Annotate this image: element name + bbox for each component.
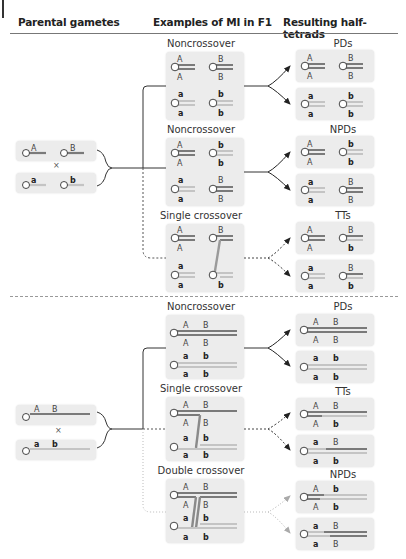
svg-text:A: A <box>177 226 183 235</box>
top-example-3-chromosomes: AA aa B b <box>171 226 233 290</box>
svg-text:A: A <box>313 420 319 429</box>
svg-text:a: a <box>178 176 183 185</box>
bottom-parental-chromosomes: AB ab <box>23 405 91 455</box>
svg-text:B: B <box>333 336 339 345</box>
svg-text:a: a <box>183 370 188 379</box>
svg-text:B: B <box>203 419 209 428</box>
svg-text:a: a <box>308 196 313 205</box>
svg-text:A: A <box>31 144 37 153</box>
svg-text:b: b <box>333 503 339 512</box>
svg-text:b: b <box>218 141 224 150</box>
svg-text:A: A <box>313 318 319 327</box>
svg-text:b: b <box>203 514 209 523</box>
svg-text:a: a <box>178 281 183 290</box>
svg-text:B: B <box>203 483 209 492</box>
svg-text:b: b <box>333 485 339 494</box>
top-example-2-chromosomes: Ab Ab aB aB <box>171 141 233 204</box>
svg-text:b: b <box>203 352 209 361</box>
svg-text:A: A <box>183 339 189 348</box>
svg-text:a: a <box>308 282 313 291</box>
svg-text:b: b <box>348 110 354 119</box>
svg-text:B: B <box>218 176 224 185</box>
svg-text:a: a <box>183 514 188 523</box>
svg-text:a: a <box>34 440 39 449</box>
svg-text:b: b <box>203 370 209 379</box>
svg-text:b: b <box>218 281 224 290</box>
svg-text:a: a <box>313 457 318 466</box>
svg-text:B: B <box>333 318 339 327</box>
svg-text:b: b <box>348 158 354 167</box>
svg-text:B: B <box>70 144 76 153</box>
svg-text:b: b <box>333 420 339 429</box>
svg-text:a: a <box>183 434 188 443</box>
svg-text:A: A <box>307 54 313 63</box>
svg-text:A: A <box>307 244 313 253</box>
bottom-example-1-chromosomes: AB AB ab ab <box>170 321 237 379</box>
svg-text:A: A <box>177 244 183 253</box>
svg-text:b: b <box>70 176 76 185</box>
svg-text:B: B <box>348 178 354 187</box>
bottom-results-chromosomes: AB AB ab ab AB Ab aB ab Ab Ab <box>300 318 367 549</box>
svg-text:B: B <box>333 402 339 411</box>
svg-text:b: b <box>348 92 354 101</box>
svg-text:a: a <box>308 264 313 273</box>
svg-text:A: A <box>307 226 313 235</box>
svg-text:B: B <box>218 73 224 82</box>
svg-text:B: B <box>348 196 354 205</box>
top-results-chromosomes: AB AB ab ab Ab Ab aB aB AB Ab aB ab <box>301 54 363 291</box>
svg-text:a: a <box>31 176 36 185</box>
svg-text:a: a <box>308 110 313 119</box>
svg-text:a: a <box>313 438 318 447</box>
svg-text:b: b <box>203 451 209 460</box>
svg-text:B: B <box>203 501 209 510</box>
svg-text:B: B <box>203 339 209 348</box>
svg-text:a: a <box>183 451 188 460</box>
svg-text:A: A <box>183 501 189 510</box>
svg-text:A: A <box>313 402 319 411</box>
svg-text:b: b <box>333 354 339 363</box>
svg-text:A: A <box>183 321 189 330</box>
svg-text:B: B <box>348 72 354 81</box>
svg-text:A: A <box>307 140 313 149</box>
top-example-1-chromosomes: AB AB ab ab <box>171 55 233 118</box>
svg-text:b: b <box>203 533 209 542</box>
svg-text:B: B <box>333 540 339 549</box>
svg-text:b: b <box>218 109 224 118</box>
svg-text:B: B <box>218 55 224 64</box>
svg-text:B: B <box>348 226 354 235</box>
svg-text:b: b <box>333 457 339 466</box>
svg-text:b: b <box>203 434 209 443</box>
svg-text:A: A <box>183 401 189 410</box>
svg-text:b: b <box>348 282 354 291</box>
svg-text:b: b <box>348 140 354 149</box>
bottom-example-2-chromosomes: AB AB ab ab <box>170 401 237 460</box>
svg-text:A: A <box>307 72 313 81</box>
svg-text:a: a <box>178 195 183 204</box>
svg-text:A: A <box>177 73 183 82</box>
svg-text:a: a <box>178 90 183 99</box>
svg-text:b: b <box>218 159 224 168</box>
svg-text:A: A <box>183 483 189 492</box>
svg-text:A: A <box>313 336 319 345</box>
svg-text:a: a <box>183 533 188 542</box>
svg-text:B: B <box>218 195 224 204</box>
svg-text:b: b <box>52 440 58 449</box>
svg-text:A: A <box>177 55 183 64</box>
svg-text:b: b <box>348 244 354 253</box>
svg-text:a: a <box>183 352 188 361</box>
svg-text:B: B <box>333 522 339 531</box>
svg-text:a: a <box>313 373 318 382</box>
svg-text:a: a <box>313 354 318 363</box>
svg-text:a: a <box>308 178 313 187</box>
svg-text:A: A <box>177 141 183 150</box>
svg-text:A: A <box>177 159 183 168</box>
svg-text:B: B <box>52 405 58 414</box>
top-parental-chromosomes: AB ab <box>23 144 85 189</box>
svg-text:B: B <box>203 321 209 330</box>
svg-text:A: A <box>313 503 319 512</box>
svg-text:A: A <box>313 485 319 494</box>
svg-text:b: b <box>218 90 224 99</box>
svg-text:a: a <box>313 522 318 531</box>
svg-text:a: a <box>178 109 183 118</box>
svg-text:B: B <box>348 264 354 273</box>
